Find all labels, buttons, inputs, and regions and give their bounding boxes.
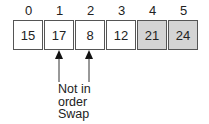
array-cell-sorted: 24 <box>168 20 198 50</box>
index-label: 2 <box>75 3 106 18</box>
array-cell: 12 <box>106 20 136 50</box>
index-label: 0 <box>13 3 44 18</box>
index-label: 1 <box>44 3 75 18</box>
index-label: 5 <box>168 3 199 18</box>
array-cell: 17 <box>44 20 74 50</box>
index-label: 4 <box>137 3 168 18</box>
caption-line: Swap <box>58 108 91 121</box>
up-arrow-icon <box>55 50 63 82</box>
index-label: 3 <box>106 3 137 18</box>
swap-caption: Not in order Swap <box>58 83 91 121</box>
array-cell: 8 <box>75 20 105 50</box>
array-cell: 15 <box>13 20 43 50</box>
array-cell-sorted: 21 <box>137 20 167 50</box>
up-arrow-icon <box>85 50 93 82</box>
caption-line: Not in <box>58 83 91 96</box>
